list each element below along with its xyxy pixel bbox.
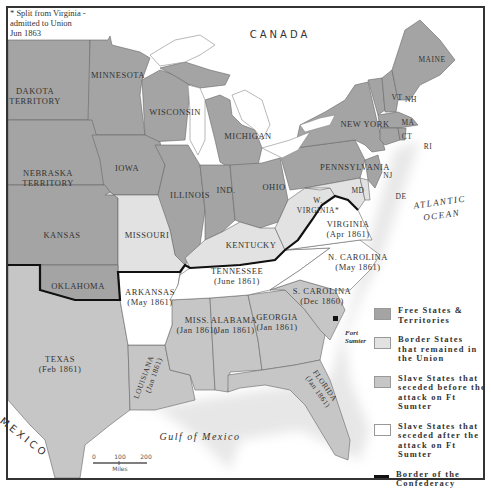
label-michigan: MICHIGAN — [224, 131, 271, 141]
svg-text:100: 100 — [114, 453, 126, 460]
label-nc-date: (May 1861) — [335, 262, 380, 272]
label-nebraska-2: TERRITORY — [22, 178, 74, 188]
state-dakota — [8, 40, 90, 120]
label-new-york: NEW YORK — [340, 119, 389, 129]
fort-sumter-marker — [333, 316, 338, 321]
label-mississippi: MISS. — [185, 315, 209, 325]
legend-swatch-border — [374, 337, 391, 349]
legend-swatch-seceded-after — [374, 424, 391, 436]
label-virginia: VIRGINIA — [327, 219, 370, 229]
label-md: MD — [351, 186, 364, 195]
label-tennessee-date: (June 1861) — [214, 276, 260, 286]
state-connecticut — [380, 128, 400, 145]
label-georgia-date: (Jan 1861) — [256, 322, 297, 332]
svg-text:Miles: Miles — [112, 465, 127, 472]
label-mississippi-date: (Jan 1861) — [176, 325, 217, 335]
label-alabama: ALABAMA — [211, 315, 258, 325]
label-nh: NH — [405, 95, 417, 104]
label-alabama-date: (Jan 1861) — [213, 325, 254, 335]
label-missouri: MISSOURI — [125, 230, 170, 240]
label-georgia: GEORGIA — [256, 312, 298, 322]
label-kentucky: KENTUCKY — [226, 240, 277, 250]
legend-item-confederacy-border: Border of the Confederacy — [374, 470, 486, 488]
wv-footnote: * Split from Virginia - admitted to Unio… — [10, 8, 130, 38]
legend-item-free: Free States & Territories — [374, 306, 486, 325]
label-canada: CANADA — [250, 29, 311, 40]
svg-text:200: 200 — [140, 453, 152, 460]
legend-item-seceded-after: Slave States that seceded after the atta… — [374, 422, 486, 460]
label-pennsylvania: PENNSYLVANIA — [320, 162, 390, 172]
svg-text:Sumter: Sumter — [345, 337, 366, 345]
label-sc-date: (Dec 1860) — [300, 296, 343, 306]
svg-text:Fort: Fort — [345, 329, 359, 337]
state-minnesota — [88, 36, 150, 135]
label-ma: MA — [401, 118, 414, 127]
label-dakota-2: TERRITORY — [9, 96, 61, 106]
label-sc: S. CAROLINA — [293, 286, 352, 296]
label-nc: N. CAROLINA — [328, 252, 388, 262]
label-wisconsin: WISCONSIN — [149, 107, 201, 117]
label-vermont: VT — [392, 93, 403, 102]
label-wv: W. — [313, 196, 322, 205]
legend-swatch-free — [374, 308, 391, 320]
label-maine: MAINE — [418, 55, 445, 64]
map-legend: Free States & Territories Border States … — [374, 306, 486, 488]
legend-swatch-seceded-before — [374, 376, 391, 388]
label-minnesota: MINNESOTA — [91, 70, 145, 80]
legend-item-seceded-before: Slave States that seceded before the att… — [374, 374, 486, 412]
label-kansas: KANSAS — [43, 230, 80, 240]
legend-line-confederacy — [374, 475, 389, 478]
label-tennessee: TENNESSEE — [211, 266, 263, 276]
label-wv-2: VIRGINIA* — [297, 206, 339, 215]
label-arkansas: ARKANSAS — [125, 287, 175, 297]
state-kansas — [8, 185, 118, 265]
label-ct: CT — [402, 132, 413, 141]
label-oklahoma: OKLAHOMA — [51, 281, 105, 291]
label-indiana: IND. — [216, 185, 235, 195]
legend-item-border: Border States that remained in the Union — [374, 335, 486, 364]
label-ocean: OCEAN — [423, 208, 461, 223]
label-virginia-date: (Apr 1861) — [326, 229, 369, 239]
label-iowa: IOWA — [115, 163, 140, 173]
label-texas-date: (Feb 1861) — [39, 364, 82, 374]
scale-bar: 0 100 200 Miles — [92, 453, 152, 472]
label-nj: NJ — [383, 171, 392, 180]
label-ri: RI — [424, 142, 433, 151]
label-de: DE — [396, 192, 407, 201]
state-ohio — [230, 158, 288, 228]
label-arkansas-date: (May 1861) — [127, 297, 172, 307]
svg-text:0: 0 — [92, 453, 96, 460]
label-illinois: ILLINOIS — [170, 190, 210, 200]
label-gulf: Gulf of Mexico — [160, 431, 241, 442]
label-nebraska: NEBRASKA — [23, 168, 73, 178]
fort-sumter-label: Fort Sumter — [345, 329, 366, 345]
label-texas: TEXAS — [45, 354, 75, 364]
label-ohio: OHIO — [262, 182, 285, 192]
label-dakota: DAKOTA — [16, 86, 55, 96]
